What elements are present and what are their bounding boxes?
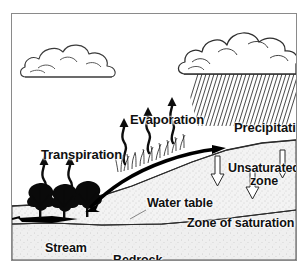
label-precipitation: Precipitation bbox=[234, 121, 297, 134]
diagram-frame: Evaporation Transpiration Precipitation … bbox=[11, 13, 297, 261]
label-evaporation: Evaporation bbox=[130, 113, 204, 126]
label-bedrock: Bedrock bbox=[113, 254, 162, 261]
label-water-table: Water table bbox=[147, 197, 213, 210]
label-unsaturated-zone-line2: zone bbox=[250, 174, 278, 188]
label-zone-of-saturation: Zone of saturation bbox=[187, 217, 294, 230]
label-unsaturated-zone: Unsaturated zone bbox=[225, 162, 297, 188]
label-transpiration: Transpiration bbox=[41, 148, 122, 161]
label-stream: Stream bbox=[45, 242, 87, 255]
water-cycle-diagram: Evaporation Transpiration Precipitation … bbox=[0, 0, 308, 271]
figure-title bbox=[0, 0, 308, 4]
